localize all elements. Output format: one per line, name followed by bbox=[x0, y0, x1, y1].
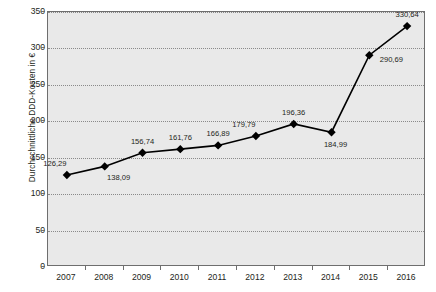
data-point-label: 290,69 bbox=[380, 55, 403, 64]
x-tick-mark bbox=[160, 266, 161, 270]
x-tick-mark bbox=[349, 266, 350, 270]
data-point-label: 126,29 bbox=[43, 158, 66, 167]
data-point-marker bbox=[176, 145, 184, 153]
data-point-label: 196,36 bbox=[282, 107, 305, 116]
data-point-marker bbox=[101, 162, 109, 170]
x-axis: 2007200820092010201120122013201420152016 bbox=[47, 266, 425, 292]
x-tick-mark bbox=[312, 266, 313, 270]
y-tick-mark bbox=[41, 266, 45, 267]
data-series-line bbox=[48, 12, 426, 267]
data-point-label: 330,64 bbox=[395, 10, 418, 19]
data-point-label: 138,09 bbox=[107, 173, 130, 182]
data-point-label: 161,76 bbox=[169, 133, 192, 142]
data-point-label: 156,74 bbox=[131, 136, 154, 145]
y-tick-mark bbox=[41, 230, 45, 231]
data-point-marker bbox=[252, 132, 260, 140]
data-point-marker bbox=[214, 141, 222, 149]
data-point-label: 184,99 bbox=[324, 140, 347, 149]
chart-container: Durchschnittliche DDD-Kosten in € 050100… bbox=[0, 0, 436, 292]
y-tick-mark bbox=[41, 120, 45, 121]
y-tick-mark bbox=[41, 11, 45, 12]
x-tick-mark bbox=[123, 266, 124, 270]
x-tick-label: 2016 bbox=[383, 272, 429, 282]
x-tick-mark bbox=[85, 266, 86, 270]
data-point-label: 166,89 bbox=[206, 129, 229, 138]
x-tick-mark bbox=[198, 266, 199, 270]
data-point-marker bbox=[327, 128, 335, 136]
data-point-marker bbox=[63, 171, 71, 179]
plot-area: 126,29138,09156,74161,76166,89179,79196,… bbox=[47, 11, 425, 266]
y-axis-ticks: 050100150200250300350 bbox=[0, 0, 45, 292]
data-point-label: 179,79 bbox=[232, 120, 255, 129]
x-tick-mark bbox=[274, 266, 275, 270]
y-tick-mark bbox=[41, 84, 45, 85]
y-tick-mark bbox=[41, 193, 45, 194]
x-tick-mark bbox=[236, 266, 237, 270]
y-tick-mark bbox=[41, 47, 45, 48]
series-line bbox=[67, 26, 407, 175]
data-point-marker bbox=[138, 149, 146, 157]
data-point-marker bbox=[290, 120, 298, 128]
x-tick-mark bbox=[387, 266, 388, 270]
